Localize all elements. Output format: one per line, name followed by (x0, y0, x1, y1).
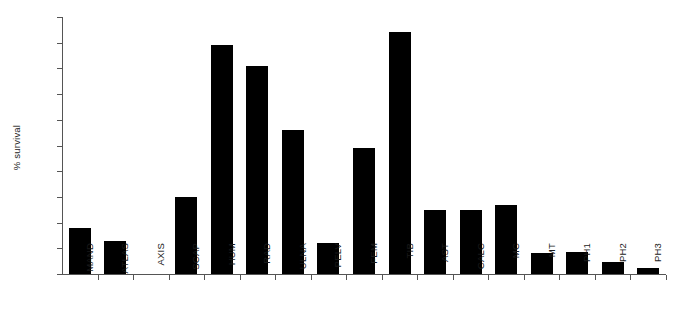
x-axis-tick (382, 275, 383, 280)
bar (211, 45, 233, 274)
x-axis-tick-label: TIB (404, 243, 415, 333)
bar-series (62, 17, 666, 275)
x-axis-category-labels: MANDATLASAXISSCAPHUMRADULNAPELVFEMTIBAST… (62, 281, 666, 336)
bar (389, 32, 411, 274)
x-axis-tick (630, 275, 631, 280)
x-axis-tick (417, 275, 418, 280)
x-axis-tick-label: MC (510, 243, 521, 333)
x-axis-tick-label: FEM (368, 243, 379, 333)
x-axis-tick-label: MT (546, 243, 557, 333)
x-axis-tick-label: AST (439, 243, 450, 333)
x-axis-tick-label: PH1 (581, 243, 592, 333)
x-axis-tick-label: ULNA (297, 243, 308, 333)
x-axis-tick (169, 275, 170, 280)
y-axis-label-container: % survival (0, 0, 48, 336)
x-axis-tick (453, 275, 454, 280)
x-axis-tick (240, 275, 241, 280)
x-axis-tick (524, 275, 525, 280)
x-axis-tick-label: HUM (226, 243, 237, 333)
x-axis-tick-label: SCAP (190, 243, 201, 333)
x-axis-tick (595, 275, 596, 280)
x-axis-tick (275, 275, 276, 280)
x-axis-tick (311, 275, 312, 280)
x-axis-tick-label: RAD (261, 243, 272, 333)
x-axis-tick-label: AXIS (155, 243, 166, 333)
x-axis-tick (98, 275, 99, 280)
x-axis-tick-label: PH2 (617, 243, 628, 333)
x-axis-tick-label: MAND (84, 243, 95, 333)
x-axis-tick (488, 275, 489, 280)
bar-chart-figure: % survival MANDATLASAXISSCAPHUMRADULNAPE… (0, 0, 681, 336)
x-axis-tick-label: ATLAS (119, 243, 130, 333)
x-axis-tick (666, 275, 667, 280)
x-axis-tick (559, 275, 560, 280)
x-axis-tick (346, 275, 347, 280)
x-axis-tick-label: CALC (475, 243, 486, 333)
x-axis-tick-label: PELV (332, 243, 343, 333)
x-axis-tick-label: PH3 (652, 243, 663, 333)
plot-area (62, 17, 666, 275)
y-axis-label: % survival (11, 88, 22, 208)
x-axis-tick (133, 275, 134, 280)
x-axis-tick (204, 275, 205, 280)
